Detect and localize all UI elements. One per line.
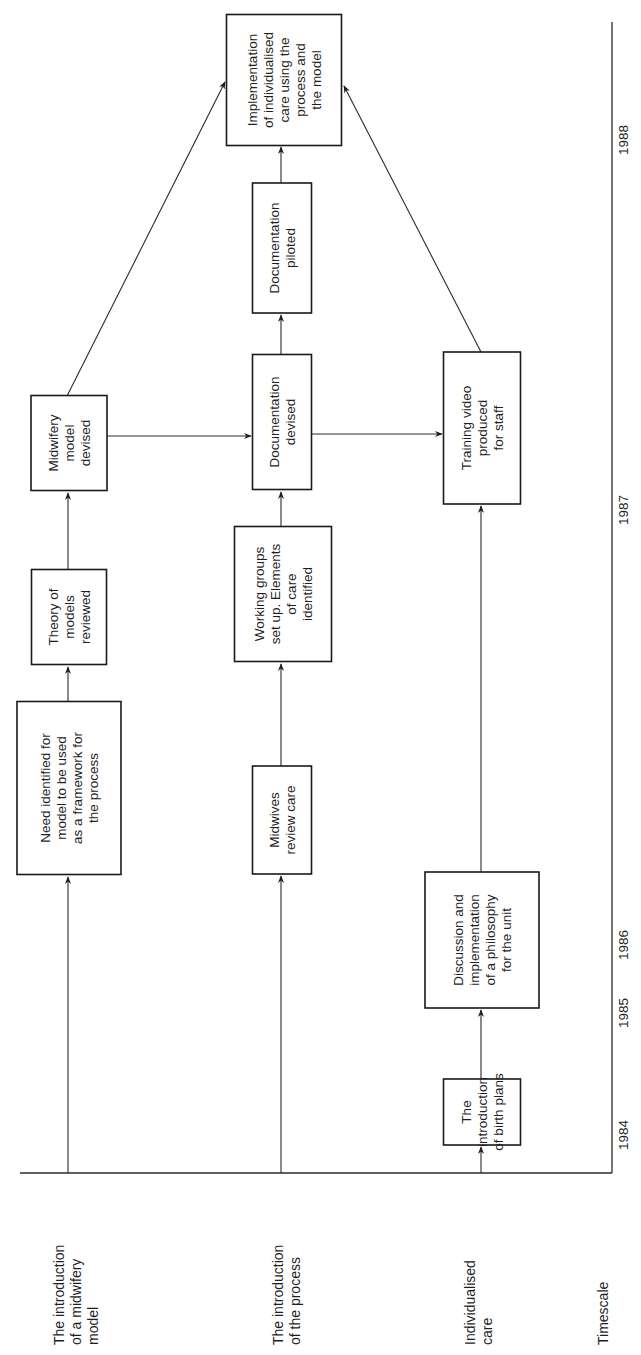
row-label-text: The introductionof a midwiferymodel (51, 1245, 101, 1345)
box-need-identified: Need identified formodel to be usedas a … (17, 702, 121, 875)
box-outline (253, 766, 312, 874)
box-outline (425, 872, 539, 1008)
year-label: 1988 (616, 125, 631, 155)
box-documentation-devised: Documentationdevised (253, 355, 312, 490)
box-text: Midwivesreview care (267, 785, 298, 854)
box-training-video: Training videoproducedfor staff (444, 352, 521, 504)
year-label: 1984 (616, 1119, 631, 1150)
box-implementation: Implementationof individualisedcare usin… (227, 15, 342, 146)
row-label-midwifery-model: The introductionof a midwiferymodel (51, 1245, 101, 1345)
box-theory-of-models: Theory ofmodelsreviewed (32, 570, 107, 665)
row-label-text: The introductionof the process (270, 1245, 303, 1345)
row-label-text: Individualisedcare (462, 1260, 495, 1345)
box-birth-plans: Theintroductionof birth plans (444, 1073, 521, 1151)
row-label-timescale: Timescale (595, 1282, 611, 1345)
row-label-text: Timescale (595, 1282, 611, 1345)
box-midwives-review-care: Midwivesreview care (253, 766, 312, 874)
row-label-individualised-care: Individualisedcare (462, 1260, 495, 1345)
year-label: 1986 (616, 930, 631, 960)
box-outline (253, 355, 312, 490)
year-text: 1986 (616, 930, 631, 960)
year-label: 1987 (616, 495, 631, 525)
year-label: 1985 (616, 998, 631, 1028)
box-working-groups: Working groupsset up. Elementsof careide… (235, 527, 332, 662)
year-text: 1988 (616, 125, 631, 155)
arrow-midwifery-to-implementation (67, 82, 225, 396)
row-label-process: The introductionof the process (270, 1245, 303, 1345)
box-midwifery-model-devised: Midwiferymodeldevised (31, 396, 107, 491)
year-text: 1985 (616, 998, 631, 1028)
box-outline (253, 183, 312, 313)
box-outline (235, 527, 332, 662)
year-text: 1987 (616, 495, 631, 525)
box-documentation-piloted: Documentationpiloted (253, 183, 312, 313)
arrow-training-to-implementation (344, 86, 481, 352)
box-text: Theory ofmodelsreviewed (46, 588, 93, 645)
year-text: 1984 (616, 1119, 631, 1150)
box-discussion-philosophy: Discussion andimplementationof a philoso… (425, 872, 539, 1008)
box-outline (17, 702, 121, 875)
timeline-flow-diagram: Need identified formodel to be usedas a … (0, 0, 641, 1355)
